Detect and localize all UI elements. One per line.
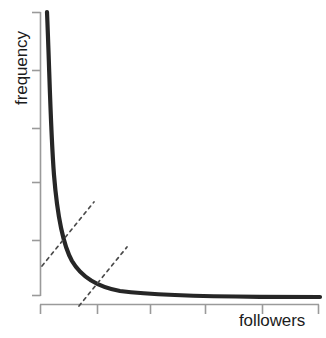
chart-figure: frequency followers: [0, 0, 326, 338]
y-axis-ticks: [32, 13, 41, 296]
x-axis-title: followers: [239, 311, 305, 331]
plot-canvas: [0, 0, 326, 338]
distribution-curve: [47, 12, 320, 297]
y-axis-title: frequency: [12, 20, 32, 116]
